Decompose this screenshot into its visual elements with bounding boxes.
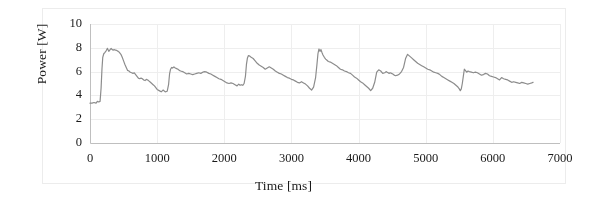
y-axis-title: Power [W] [34, 6, 50, 102]
x-tick-label: 3000 [268, 151, 314, 166]
x-tick-label: 4000 [336, 151, 382, 166]
y-tick-label: 4 [54, 87, 82, 102]
x-tick-label: 1000 [134, 151, 180, 166]
x-tick-label: 7000 [537, 151, 583, 166]
y-tick-label: 6 [54, 64, 82, 79]
y-tick-label: 0 [54, 135, 82, 150]
x-tick-label: 6000 [470, 151, 516, 166]
y-tick-label: 10 [54, 16, 82, 31]
x-tick-label: 5000 [403, 151, 449, 166]
y-tick-label: 2 [54, 111, 82, 126]
x-axis-title: Time [ms] [255, 178, 312, 194]
x-tick-label: 2000 [201, 151, 247, 166]
x-tick-label: 0 [67, 151, 113, 166]
y-tick-label: 8 [54, 40, 82, 55]
